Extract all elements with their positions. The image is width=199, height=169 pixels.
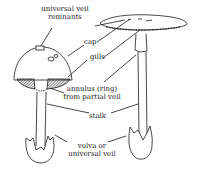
- label-stalk: stalk: [89, 113, 106, 120]
- mature-volva: [129, 126, 152, 159]
- label-line: annulus (ring): [62, 86, 122, 93]
- label-volva: volva or universal veil: [64, 143, 120, 158]
- label-line: volva or: [64, 143, 120, 150]
- mature-annulus: [135, 34, 147, 52]
- label-gills: gills: [90, 54, 105, 61]
- young-cap: [14, 47, 72, 80]
- label-line: remnants: [33, 14, 97, 21]
- mature-stalk: [138, 52, 147, 135]
- label-line: from partial veil: [62, 94, 122, 101]
- label-line: universal veil: [64, 151, 120, 158]
- young-stalk: [36, 92, 46, 146]
- mushroom-diagram: universal veil remnants cap gills annulu…: [0, 0, 199, 169]
- label-line: universal veil: [33, 6, 97, 13]
- young-gills: [17, 79, 35, 89]
- label-universal-veil-remnants: universal veil remnants: [33, 6, 97, 21]
- young-volva: [26, 136, 54, 163]
- label-cap: cap: [84, 39, 97, 46]
- label-annulus: annulus (ring) from partial veil: [62, 86, 122, 101]
